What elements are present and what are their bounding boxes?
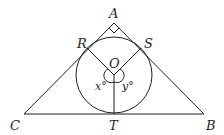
label-angle-y: y° (121, 80, 134, 93)
label-o: O (109, 56, 120, 71)
right-angle-mark (109, 28, 119, 33)
geometry-diagram: A R S O x° y° C T B (0, 0, 224, 135)
label-angle-x: x° (95, 80, 107, 93)
label-c: C (10, 118, 20, 133)
side-ab (114, 23, 204, 114)
label-b: B (205, 118, 216, 133)
label-a: A (108, 6, 118, 21)
label-r: R (76, 36, 87, 51)
side-ca (24, 23, 114, 114)
label-s: S (144, 36, 153, 51)
label-t: T (109, 118, 119, 133)
